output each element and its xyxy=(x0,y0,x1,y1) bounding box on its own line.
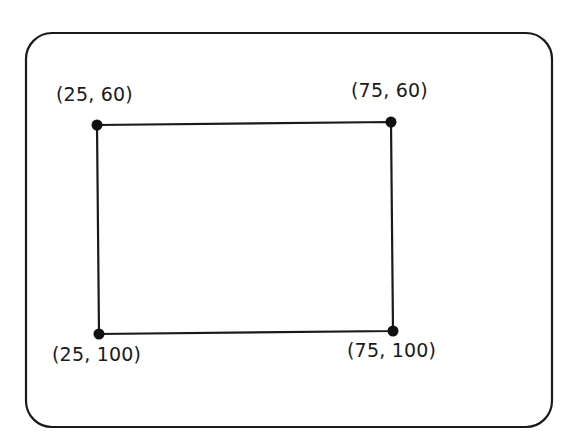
diagram-canvas xyxy=(0,0,581,446)
point-top-left xyxy=(92,120,103,131)
label-top-right: (75, 60) xyxy=(351,79,428,101)
label-bottom-right: (75, 100) xyxy=(347,339,436,361)
point-bottom-right xyxy=(388,326,399,337)
point-top-right xyxy=(386,117,397,128)
label-top-left: (25, 60) xyxy=(56,83,133,105)
rectangle-shape xyxy=(97,122,393,334)
point-bottom-left xyxy=(94,329,105,340)
label-bottom-left: (25, 100) xyxy=(52,343,141,365)
